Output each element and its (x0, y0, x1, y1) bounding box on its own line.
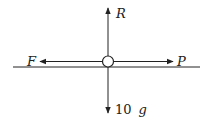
force-f-label: F (26, 54, 37, 69)
particle-body (103, 56, 114, 67)
weight-gravity-symbol: g (139, 102, 147, 117)
force-r-label: R (115, 6, 126, 21)
free-body-diagram: R F P 10 g (0, 0, 205, 127)
force-weight-label: 10 g (115, 100, 147, 117)
weight-coefficient: 10 (115, 102, 132, 117)
force-p-label: P (176, 54, 186, 69)
